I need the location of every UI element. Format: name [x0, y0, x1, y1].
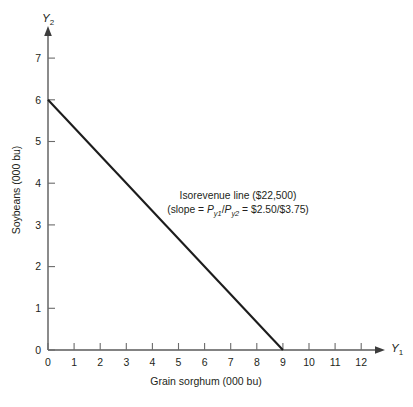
slope-suffix: = $2.50/$3.75) — [239, 204, 309, 215]
isorevenue-annotation-line2: (slope = Py1/Py2 = $2.50/$3.75) — [167, 204, 309, 218]
x-axis-ticks — [48, 343, 361, 350]
y-tick-label: 2 — [35, 260, 41, 272]
x-tick-label: 11 — [330, 356, 341, 368]
y-tick-label: 3 — [35, 219, 41, 231]
y-tick-label: 6 — [35, 94, 41, 106]
x-tick-label: 4 — [149, 356, 155, 368]
y-tick-label: 0 — [35, 344, 41, 356]
y-axis-variable-name: Y2 — [42, 12, 55, 27]
x-tick-label: 0 — [45, 356, 51, 368]
slope-prefix: (slope = — [167, 204, 207, 215]
x-tick-label: 6 — [202, 356, 208, 368]
y-axis-arrowhead — [44, 26, 52, 36]
y-tick-label: 1 — [35, 302, 41, 314]
x-tick-label: 9 — [280, 356, 286, 368]
x-axis-arrowhead — [375, 346, 385, 354]
x-tick-label: 12 — [355, 356, 367, 368]
x-axis-variable-name: Y1 — [391, 342, 404, 357]
y-axis-title: Soybeans (000 bu) — [10, 146, 22, 235]
x-tick-labels: 0 1 2 3 4 5 6 7 8 9 10 11 12 — [45, 356, 367, 368]
y-tick-labels: 0 1 2 3 4 5 6 7 — [35, 52, 41, 356]
isorevenue-line — [48, 100, 283, 350]
price-y2-subscript: y2 — [230, 209, 239, 218]
x-tick-label: 1 — [71, 356, 77, 368]
x-axis-variable-subscript: 1 — [399, 348, 404, 357]
price-y1-subscript: y1 — [213, 209, 222, 218]
y-axis-variable-subscript: 2 — [50, 18, 55, 27]
y-tick-label: 5 — [35, 135, 41, 147]
y-tick-label: 4 — [35, 177, 41, 189]
x-tick-label: 7 — [228, 356, 234, 368]
isorevenue-chart-figure: 0 1 2 3 4 5 6 7 0 1 2 3 4 5 6 7 8 9 10 1… — [0, 0, 413, 407]
isorevenue-annotation-line1: Isorevenue line ($22,500) — [180, 190, 297, 201]
x-tick-label: 5 — [176, 356, 182, 368]
x-tick-label: 10 — [303, 356, 315, 368]
x-tick-label: 8 — [254, 356, 260, 368]
x-axis-title: Grain sorghum (000 bu) — [150, 375, 261, 387]
x-tick-label: 3 — [123, 356, 129, 368]
chart-canvas: 0 1 2 3 4 5 6 7 0 1 2 3 4 5 6 7 8 9 10 1… — [0, 0, 413, 407]
y-tick-label: 7 — [35, 52, 41, 64]
x-tick-label: 2 — [97, 356, 103, 368]
